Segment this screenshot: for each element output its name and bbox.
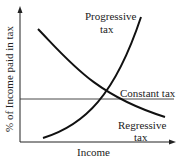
y-axis-arrow-icon: [18, 6, 23, 13]
regressive-tax-curve: [38, 29, 165, 117]
progressive-label-line1: Progressive: [85, 10, 136, 22]
progressive-label-line2: tax: [100, 23, 114, 35]
x-axis-label: Income: [77, 146, 110, 158]
constant-tax-label: Constant tax: [120, 87, 176, 99]
x-axis-arrow-icon: [169, 140, 176, 145]
tax-chart: Progressive tax Constant tax Regressive …: [0, 0, 189, 159]
regressive-label-line2: tax: [134, 131, 148, 143]
y-axis-label: % of Income paid in tax: [3, 26, 15, 132]
regressive-label-line1: Regressive: [118, 119, 166, 131]
